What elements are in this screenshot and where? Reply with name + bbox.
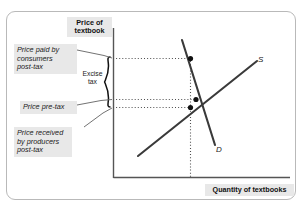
callout-price-received-by-producers-post-tax: Price received by producers post-tax — [14, 127, 72, 157]
figure-container: Price of textbook Quantity of textbooks … — [0, 0, 305, 211]
callout-price-pre-tax: Price pre-tax — [20, 101, 77, 114]
point-consumer-price-post-tax — [188, 56, 193, 61]
point-producer-price-post-tax — [188, 105, 193, 110]
leader-line-producers — [84, 108, 112, 127]
callout-price-paid-by-consumers-post-tax: Price paid by consumers post-tax — [14, 44, 77, 74]
supply-curve — [138, 61, 257, 156]
demand-curve — [182, 40, 215, 145]
excise-tax-label: Excise tax — [79, 70, 106, 86]
x-axis-title: Quantity of textbooks — [205, 184, 294, 196]
y-axis-title: Price of textbook — [67, 17, 112, 37]
supply-curve-label: S — [258, 55, 263, 64]
point-pre-tax-equilibrium — [193, 97, 198, 102]
demand-curve-label: D — [216, 145, 222, 154]
leader-line-consumers — [77, 50, 112, 58]
leader-line-pretax — [77, 100, 112, 106]
